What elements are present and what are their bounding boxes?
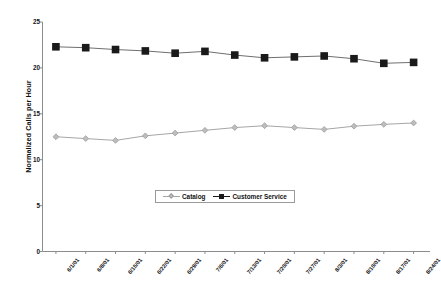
data-point-marker xyxy=(291,53,299,61)
data-point-marker xyxy=(232,125,238,131)
legend: Catalog Customer Service xyxy=(155,190,295,203)
data-point-marker xyxy=(380,60,388,68)
data-point-marker xyxy=(172,130,178,136)
data-point-marker xyxy=(82,44,90,52)
data-point-marker xyxy=(52,43,60,51)
legend-label-catalog: Catalog xyxy=(182,193,205,200)
series-catalog xyxy=(53,120,417,143)
data-point-marker xyxy=(262,123,268,129)
data-point-marker xyxy=(83,136,89,142)
data-point-marker xyxy=(142,133,148,139)
data-point-marker xyxy=(171,49,179,57)
legend-label-customer-service: Customer Service xyxy=(232,193,286,200)
data-point-marker xyxy=(53,134,59,140)
data-point-marker xyxy=(142,47,150,55)
data-point-marker xyxy=(202,127,208,133)
customer-service-square-icon xyxy=(213,193,230,200)
catalog-diamond-icon xyxy=(163,193,180,200)
data-point-marker xyxy=(291,125,297,131)
data-point-marker xyxy=(261,54,269,62)
data-point-marker xyxy=(411,120,417,126)
data-point-marker xyxy=(351,123,357,129)
data-point-marker xyxy=(231,51,239,59)
data-point-marker xyxy=(320,52,328,60)
data-point-marker xyxy=(321,127,327,133)
data-point-marker xyxy=(381,121,387,127)
data-point-marker xyxy=(201,48,209,56)
data-point-marker xyxy=(410,59,418,67)
legend-entry-catalog[interactable]: Catalog xyxy=(163,193,205,200)
data-point-marker xyxy=(112,46,120,54)
data-point-marker xyxy=(113,138,119,144)
data-point-marker xyxy=(350,55,358,63)
series-customer-service xyxy=(52,43,417,67)
legend-entry-customer-service[interactable]: Customer Service xyxy=(213,193,286,200)
